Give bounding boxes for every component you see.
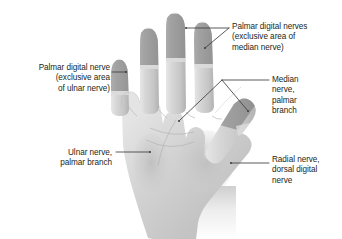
index-finger-distal-shaded — [190, 23, 218, 64]
label-median-nerve-palmar-branch: Median nerve, palmar branch — [272, 75, 338, 117]
index-finger — [190, 22, 218, 113]
label-ulnar-palmar-digital-nerve: Palmar digital nerve (exclusive area of … — [6, 63, 110, 94]
label-radial-nerve-dorsal-digital-nerve: Radial nerve, dorsal digital nerve — [272, 155, 340, 186]
label-median-palmar-digital-nerves: Palmar digital nerves (exclusive area of… — [232, 22, 338, 53]
hand-nerve-diagram: Palmar digital nerve (exclusive area of … — [0, 0, 342, 239]
little-finger-distal-shaded — [108, 60, 136, 91]
ring-finger — [136, 28, 164, 114]
ring-finger-distal-shaded — [136, 29, 164, 65]
middle-finger-distal-shaded — [162, 14, 190, 58]
label-ulnar-nerve-palmar-branch: Ulnar nerve, palmar branch — [26, 148, 112, 169]
